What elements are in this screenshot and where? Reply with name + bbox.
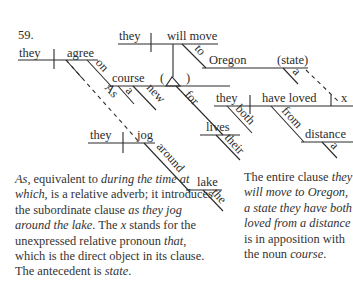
appositive-state: (state): [277, 53, 308, 67]
note-segment: The entire clause: [244, 170, 332, 184]
note-segment: , is a relative adverb; it introduces th…: [15, 187, 213, 216]
object-lives: lives: [206, 120, 230, 134]
exercise-number: 59.: [18, 28, 34, 42]
preposition-around: around: [154, 140, 188, 176]
main-verb: agree: [67, 46, 95, 60]
preposition-on: on: [93, 56, 112, 75]
explanation-note-right: The entire clause they will move to Oreg…: [244, 170, 353, 262]
as-solid: [66, 60, 82, 78]
main-subject: they: [19, 46, 41, 60]
note-segment: course: [290, 247, 323, 261]
object-distance: distance: [305, 127, 346, 141]
object-course: course: [112, 71, 145, 85]
clause-subject: they: [119, 29, 141, 43]
clause-verb: will move: [167, 29, 218, 43]
note-segment: , equivalent to: [27, 172, 101, 186]
note-segment: . The: [92, 218, 120, 232]
subordinate-subject: they: [90, 128, 112, 142]
close-paren: ): [186, 71, 190, 85]
explanation-note-left: As, equivalent to during the time at whi…: [15, 172, 215, 280]
relative-subject: they: [216, 91, 238, 105]
object-oregon: Oregon: [209, 53, 247, 67]
relative-object-x: x: [341, 91, 348, 105]
preposition-from: from: [279, 104, 306, 132]
open-paren: (: [160, 71, 164, 85]
note-segment: that: [164, 234, 183, 248]
preposition-for: for: [182, 88, 203, 109]
subordinate-verb: jog: [136, 128, 154, 142]
note-segment: .: [323, 247, 326, 261]
note-segment: .: [128, 264, 131, 278]
pedestal-triangle: [166, 77, 180, 86]
note-segment: As: [15, 172, 27, 186]
note-segment: state: [105, 264, 128, 278]
